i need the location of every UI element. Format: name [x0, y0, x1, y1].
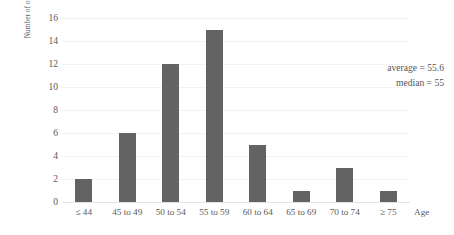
bar-series: [62, 18, 410, 202]
x-axis-tick-label: 65 to 69: [278, 205, 324, 219]
bar: [249, 145, 266, 203]
y-axis-title: Number of officials: [22, 0, 34, 64]
bar: [336, 168, 353, 203]
y-axis-tick-label: 4: [36, 151, 58, 161]
bar: [162, 64, 179, 202]
x-axis-tick-label: 45 to 49: [104, 205, 150, 219]
y-axis-tick-labels: 0246810121416: [36, 0, 58, 235]
bar: [75, 179, 92, 202]
plot-area: [62, 18, 410, 202]
bar-chart: Number of officials 0246810121416 ≤ 4445…: [0, 0, 454, 235]
x-axis-title: Age: [414, 205, 429, 219]
x-axis-tick-labels: ≤ 4445 to 4950 to 5455 to 5960 to 6465 t…: [62, 205, 410, 221]
y-axis-tick-label: 12: [36, 59, 58, 69]
y-axis-tick-label: 2: [36, 174, 58, 184]
y-axis-tick-label: 14: [36, 36, 58, 46]
bar: [206, 30, 223, 203]
statistics-annotations: average = 55.6median = 55: [300, 60, 444, 90]
x-axis-tick-label: 60 to 64: [235, 205, 281, 219]
bar: [293, 191, 310, 203]
x-axis-tick-label: 70 to 74: [322, 205, 368, 219]
y-axis-tick-label: 8: [36, 105, 58, 115]
x-axis-baseline: [62, 202, 410, 203]
y-axis-tick-label: 0: [36, 197, 58, 207]
annotation-text: average = 55.6: [300, 60, 444, 75]
y-axis-tick-label: 10: [36, 82, 58, 92]
bar: [380, 191, 397, 203]
y-axis-tick-label: 6: [36, 128, 58, 138]
x-axis-tick-label: ≤ 44: [61, 205, 107, 219]
x-axis-tick-label: 55 to 59: [191, 205, 237, 219]
annotation-text: median = 55: [300, 75, 444, 90]
y-axis-tick-label: 16: [36, 13, 58, 23]
bar: [119, 133, 136, 202]
x-axis-tick-label: ≥ 75: [365, 205, 411, 219]
x-axis-tick-label: 50 to 54: [148, 205, 194, 219]
